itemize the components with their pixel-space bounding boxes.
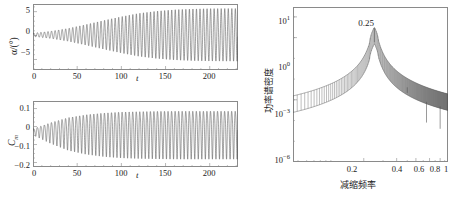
figure-root: 5 0 −5 0 50 100 150 200 t α/(°) 0.1 0 −0… [0,0,457,199]
psd-ytick-3-mantissa: 10 [275,155,284,165]
cm-yaxis-label: Cm [7,135,19,146]
psd-ytick-2-mantissa: 10 [275,109,284,119]
cm-xaxis-label: t [136,170,139,180]
alpha-ytick-1: 0 [12,27,30,36]
alpha-xtick-0: 0 [32,72,36,81]
psd-ytick-0-exponent: 1 [287,14,290,21]
cm-xtick-3: 150 [159,169,172,178]
psd-ytick-0-mantissa: 10 [278,16,287,26]
cm-curve-svg [33,101,238,167]
psd-ytick-3: 10−6 [264,154,290,164]
alpha-xtick-1: 50 [73,72,82,81]
panel-cm-time-history [33,101,238,167]
cm-xtick-0: 0 [32,169,36,178]
cm-ytick-0: 0.1 [8,104,30,113]
cm-xtick-2: 100 [115,169,128,178]
alpha-xtick-4: 200 [203,72,216,81]
cm-yaxis-label-main: C [7,140,17,146]
panel-cm-plot-area [33,101,238,167]
alpha-curve-svg [33,4,238,70]
psd-xtick-2: 0.6 [414,165,425,174]
psd-ytick-1-exponent: 0 [287,60,290,67]
cm-yaxis-label-sub: m [12,135,19,140]
psd-ytick-3-exponent: −6 [283,153,290,160]
alpha-yaxis-label: α/(°) [9,37,19,55]
psd-curve-svg [293,7,448,162]
alpha-xaxis-label: t [136,73,139,83]
panel-alpha-time-history [33,4,238,70]
cm-xtick-4: 200 [203,169,216,178]
psd-xaxis-label: 减缩频率 [340,178,376,191]
cm-ytick-1: 0 [8,123,30,132]
cm-ytick-3: −0.2 [4,161,30,170]
psd-ytick-0: 101 [268,15,290,25]
psd-xtick-3: 0.8 [430,165,441,174]
psd-xtick-1: 0.4 [392,165,403,174]
panel-power-spectral-density [293,7,448,162]
panel-psd-plot-area [293,7,448,162]
psd-ytick-2-exponent: −3 [283,107,290,114]
psd-xtick-4: 1 [444,165,448,174]
psd-xtick-0: 0.2 [347,165,358,174]
psd-ytick-1-mantissa: 10 [278,62,287,72]
alpha-xtick-2: 100 [115,72,128,81]
panel-alpha-plot-area [33,4,238,70]
psd-yaxis-label: 功率谱密度 [262,56,275,126]
cm-xtick-1: 50 [73,169,82,178]
psd-peak-annotation: 0.25 [358,18,374,28]
alpha-ytick-0: 5 [12,6,30,15]
alpha-xtick-3: 150 [159,72,172,81]
